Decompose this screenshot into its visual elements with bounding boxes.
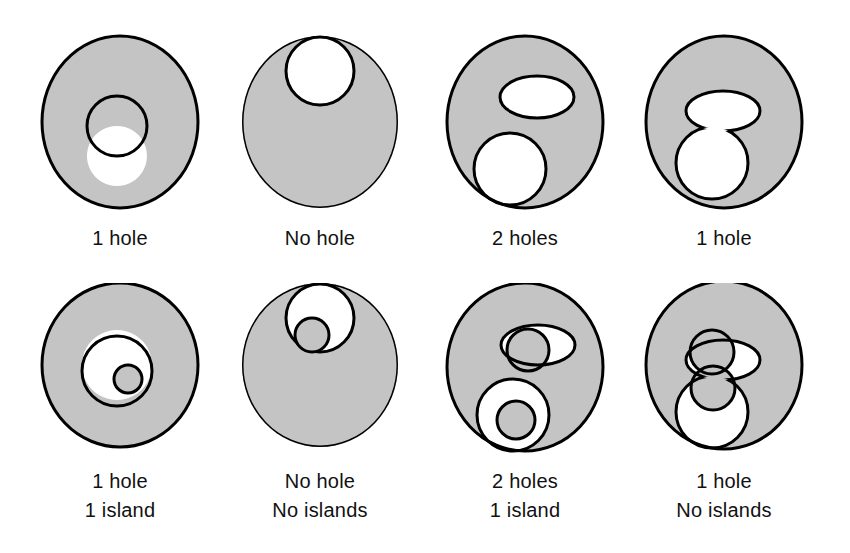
disk-with-two-holes-graphic: [419, 22, 631, 222]
disk-hole-with-island-graphic: [14, 283, 226, 463]
caption-line-2: No islands: [618, 496, 830, 525]
caption-line-1: No hole: [214, 224, 426, 253]
caption: 2 holes: [419, 224, 631, 253]
disk-bay-with-peninsula-graphic: [214, 283, 426, 463]
caption: 2 holes 1 island: [419, 467, 631, 525]
upper-hole-boundary: [500, 76, 574, 118]
caption: No hole No islands: [214, 467, 426, 525]
caption-line-1: 2 holes: [419, 224, 631, 253]
figure-disk-with-bay-no-hole: No hole: [214, 22, 426, 253]
caption-line-1: 1 hole: [618, 467, 830, 496]
disk-merged-hole-peninsula-graphic: [618, 283, 830, 463]
caption-line-2: 1 island: [14, 496, 226, 525]
figure-disk-bay-with-peninsula: No hole No islands: [214, 283, 426, 525]
caption: 1 hole: [618, 224, 830, 253]
caption-line-2: No islands: [214, 496, 426, 525]
caption: 1 hole No islands: [618, 467, 830, 525]
caption: 1 hole 1 island: [14, 467, 226, 525]
figure-disk-with-one-hole: 1 hole: [14, 22, 226, 253]
figure-disk-with-two-holes: 2 holes: [419, 22, 631, 253]
disk-with-bay-no-hole-graphic: [214, 22, 426, 222]
figure-disk-hole-with-island: 1 hole 1 island: [14, 283, 226, 525]
disk-with-one-hole-graphic: [14, 22, 226, 222]
caption: No hole: [214, 224, 426, 253]
caption-line-1: No hole: [214, 467, 426, 496]
figure-disk-with-merged-hole: 1 hole: [618, 22, 830, 253]
caption-line-2: 1 island: [419, 496, 631, 525]
figure-disk-two-holes-one-island: 2 holes 1 island: [419, 283, 631, 525]
caption-line-1: 1 hole: [618, 224, 830, 253]
disk-with-merged-hole-graphic: [618, 22, 830, 222]
figure-sheet: 1 hole No hole 2 holes: [0, 0, 850, 553]
caption: 1 hole: [14, 224, 226, 253]
disk-two-holes-one-island-graphic: [419, 283, 631, 463]
bay-boundary: [286, 37, 354, 105]
caption-line-1: 2 holes: [419, 467, 631, 496]
lower-hole-boundary: [474, 133, 546, 205]
figure-disk-merged-hole-peninsula: 1 hole No islands: [618, 283, 830, 525]
caption-line-1: 1 hole: [14, 467, 226, 496]
caption-line-1: 1 hole: [14, 224, 226, 253]
